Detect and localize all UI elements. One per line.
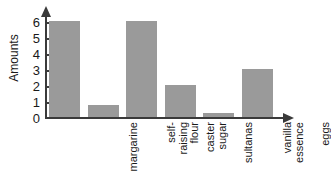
x-axis-label-margarine: margarine — [128, 122, 140, 180]
x-axis-label-self-raising-flour: self-raisingflour — [166, 122, 201, 180]
x-axis-label-vanilla-essence: vanillaessence — [282, 122, 305, 180]
x-axis-label-caster-sugar: castersugar — [205, 122, 228, 180]
x-axis-label-eggs: eggs — [320, 122, 331, 180]
x-axis-label-sultanas: sultanas — [243, 122, 255, 180]
bar-chart-figure: Amounts 6 5 4 3 2 1 0 — [0, 0, 331, 186]
x-axis-labels: margarineself-raisingflourcastersugarsul… — [0, 0, 331, 186]
